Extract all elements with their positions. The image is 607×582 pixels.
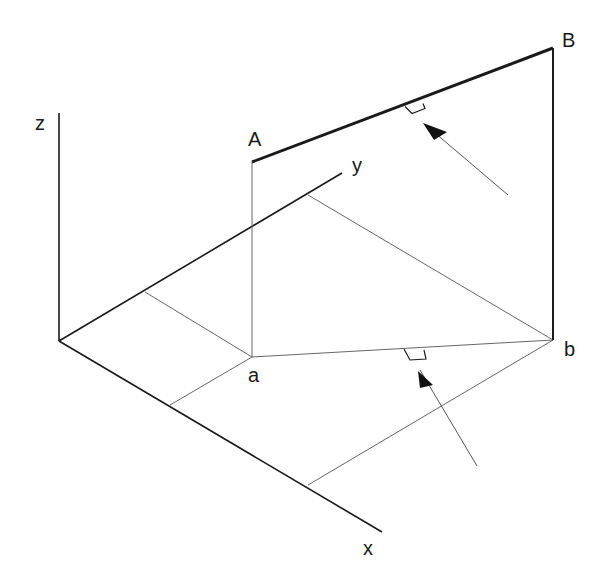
main-lines [252,48,553,340]
construction-lines [145,162,553,485]
arrowhead-icon [418,371,433,388]
gridline-a-to-y-axis [145,292,252,357]
point-A-label: A [248,128,262,150]
arrow-shaft-AB [428,127,508,195]
view-arrow-AB [405,104,508,196]
arrowhead-icon [423,123,447,140]
projection-ab [252,340,553,357]
z-axis-label: z [35,112,45,134]
gridline-a-to-x-axis [170,357,252,405]
gridline-b-to-x-axis [308,340,553,485]
axes [59,113,382,532]
y-axis-label: y [352,154,362,176]
point-a-label: a [248,364,260,386]
y-axis [59,173,342,341]
x-axis-label: x [363,537,373,559]
point-b-label: b [564,338,575,360]
right-angle-marker-AB [405,104,425,114]
projection-diagram: z y x A B a b [0,0,607,582]
view-arrow-ab [404,349,477,466]
point-B-label: B [562,29,575,51]
line-AB [252,48,553,162]
right-angle-marker-ab [404,349,426,360]
gridline-b-to-y-axis [308,195,553,340]
x-axis [59,341,382,532]
